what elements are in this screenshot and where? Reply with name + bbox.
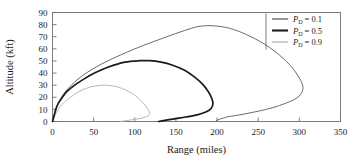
x-tick-label: 100 (128, 127, 142, 137)
y-axis-ticks: 0102030405060708090 (39, 8, 57, 127)
x-tick-label: 350 (334, 127, 348, 137)
x-tick-label: 50 (89, 127, 99, 137)
legend-subscript: D (298, 31, 303, 37)
legend-label-3: PD= 0.9 (292, 37, 322, 48)
x-tick-label: 150 (169, 127, 183, 137)
legend-subscript: D (298, 19, 303, 25)
curve-pd-01 (53, 26, 303, 122)
x-axis-title: Range (miles) (167, 144, 227, 156)
data-curves (53, 26, 303, 122)
chart-legend: PD= 0.1PD= 0.5PD= 0.9 (266, 14, 322, 50)
legend-label-2: PD= 0.5 (292, 26, 322, 37)
y-tick-label: 30 (39, 80, 49, 90)
x-tick-label: 200 (210, 127, 224, 137)
legend-value: = 0.5 (305, 26, 323, 36)
x-axis-ticks: 050100150200250300350 (50, 118, 348, 137)
y-tick-label: 90 (39, 8, 49, 18)
y-tick-label: 20 (39, 92, 49, 102)
x-tick-label: 300 (293, 127, 307, 137)
legend-label-1: PD= 0.1 (292, 14, 322, 25)
x-tick-label: 0 (50, 127, 55, 137)
legend-value: = 0.1 (305, 14, 323, 24)
legend-value: = 0.9 (305, 37, 323, 47)
y-tick-label: 10 (39, 105, 49, 115)
y-tick-label: 0 (43, 117, 48, 127)
legend-subscript: D (298, 42, 303, 48)
y-tick-label: 60 (39, 44, 49, 54)
y-tick-label: 70 (39, 32, 49, 42)
chart-figure: 0102030405060708090 05010015020025030035… (0, 0, 363, 158)
chart-plot: 0102030405060708090 05010015020025030035… (0, 0, 363, 158)
y-tick-label: 40 (39, 68, 49, 78)
y-tick-label: 80 (39, 20, 49, 30)
x-tick-label: 250 (251, 127, 265, 137)
y-axis-title: Altitude (kft) (4, 39, 16, 95)
curve-pd-05 (53, 61, 213, 122)
y-tick-label: 50 (39, 56, 49, 66)
